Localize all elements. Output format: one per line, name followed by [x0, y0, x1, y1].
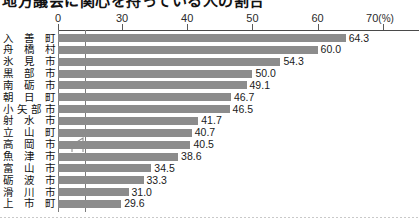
bar-4 — [58, 81, 247, 89]
bar-14 — [58, 200, 121, 208]
x-axis-tick-label-40: 40 — [181, 12, 193, 24]
x-axis-tick-label-70: 70(%) — [366, 12, 394, 24]
bar-12 — [58, 176, 144, 184]
x-axis-tick-70 — [383, 24, 384, 30]
bar-2 — [58, 58, 280, 66]
x-axis-tick-40 — [187, 24, 188, 30]
x-axis-tick-label-0: 0 — [55, 12, 61, 24]
x-axis-tick-label-50: 50 — [246, 12, 258, 24]
bar-9 — [58, 141, 190, 149]
bar-3 — [58, 70, 252, 78]
x-axis-tick-label-60: 60 — [311, 12, 323, 24]
bar-7 — [58, 117, 198, 125]
x-axis-tick-0 — [58, 24, 59, 30]
x-axis-tick-30 — [122, 24, 123, 30]
x-axis-tick-label-30: 30 — [116, 12, 128, 24]
chart-row: 上市町29.6 — [0, 197, 419, 211]
x-axis-tick-50 — [252, 24, 253, 30]
bar-8 — [58, 129, 192, 137]
bar-10 — [58, 153, 178, 161]
bar-chart: 地方議会に関心を持っている人の割合 03040506070(%) 入善町64.3… — [0, 0, 419, 220]
row-label-char: 町 — [45, 197, 55, 210]
row-label-char: 市 — [24, 197, 34, 210]
bar-6 — [58, 105, 230, 113]
chart-title: 地方議会に関心を持っている人の割合 — [2, 0, 265, 10]
x-axis-tick-60 — [318, 24, 319, 30]
row-label-char: 上 — [3, 197, 13, 210]
bar-5 — [58, 93, 231, 101]
bar-value-label-14: 29.6 — [124, 197, 144, 210]
row-label-14: 上市町 — [3, 197, 55, 210]
bar-0 — [58, 34, 346, 42]
x-axis-unit-label: (%) — [378, 13, 394, 24]
bar-1 — [58, 46, 318, 54]
bar-11 — [58, 164, 151, 172]
bottom-divider — [0, 217, 419, 218]
bar-13 — [58, 188, 129, 196]
